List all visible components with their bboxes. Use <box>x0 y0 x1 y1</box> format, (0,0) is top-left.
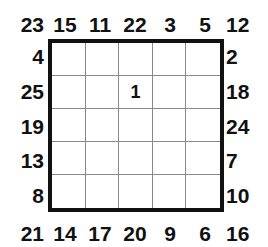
bottom-clue-col-1: 14 <box>48 221 82 245</box>
grid-cell-r2c2[interactable] <box>86 76 120 109</box>
left-clue-row-4: 13 <box>4 143 44 177</box>
grid-cell-r3c4[interactable] <box>153 109 187 142</box>
grid-cell-r1c4[interactable] <box>153 43 187 76</box>
puzzle-grid: 1 <box>48 39 224 212</box>
grid-cell-r5c5[interactable] <box>186 175 220 208</box>
grid-cell-r4c1[interactable] <box>52 142 86 175</box>
grid-cell-r2c5[interactable] <box>186 76 220 109</box>
bottom-clue-col-4: 9 <box>153 221 187 245</box>
grid-cell-r1c2[interactable] <box>86 43 120 76</box>
grid-cell-r3c5[interactable] <box>186 109 220 142</box>
left-clue-row-3: 19 <box>4 109 44 143</box>
grid-cell-r2c1[interactable] <box>52 76 86 109</box>
bottom-clue-col-5: 6 <box>188 221 222 245</box>
grid-cell-r2c4[interactable] <box>153 76 187 109</box>
grid-cell-r4c2[interactable] <box>86 142 120 175</box>
grid-cell-r2c3[interactable]: 1 <box>119 76 153 109</box>
grid-cell-r3c2[interactable] <box>86 109 120 142</box>
grid-cell-r5c1[interactable] <box>52 175 86 208</box>
top-clue-col-3: 22 <box>118 12 152 36</box>
grid-cell-r3c3[interactable] <box>119 109 153 142</box>
grid-cell-r5c3[interactable] <box>119 175 153 208</box>
top-clue-col-1: 15 <box>48 12 82 36</box>
grid-cell-r4c4[interactable] <box>153 142 187 175</box>
right-clue-row-2: 18 <box>226 74 266 108</box>
grid-cell-r1c1[interactable] <box>52 43 86 76</box>
corner-clue-bottom-right: 16 <box>226 221 266 245</box>
corner-clue-bottom-left: 21 <box>4 221 44 245</box>
corner-clue-top-left: 23 <box>4 12 44 36</box>
right-clue-row-5: 10 <box>226 178 266 212</box>
corner-clue-top-right: 12 <box>226 12 266 36</box>
grid-cell-r5c2[interactable] <box>86 175 120 208</box>
grid-cell-r5c4[interactable] <box>153 175 187 208</box>
left-clue-row-1: 4 <box>4 39 44 73</box>
grid-cell-r4c3[interactable] <box>119 142 153 175</box>
left-clue-row-5: 8 <box>4 178 44 212</box>
right-clue-row-1: 2 <box>226 39 266 73</box>
right-clue-row-3: 24 <box>226 109 266 143</box>
top-clue-col-4: 3 <box>153 12 187 36</box>
grid-cell-r3c1[interactable] <box>52 109 86 142</box>
puzzle-board: 23 12 21 16 15 11 22 3 5 14 17 20 9 6 4 … <box>0 0 268 247</box>
grid-cell-r1c5[interactable] <box>186 43 220 76</box>
grid-cell-r4c5[interactable] <box>186 142 220 175</box>
bottom-clue-col-2: 17 <box>83 221 117 245</box>
grid-cell-r1c3[interactable] <box>119 43 153 76</box>
top-clue-col-5: 5 <box>188 12 222 36</box>
left-clue-row-2: 25 <box>4 74 44 108</box>
right-clue-row-4: 7 <box>226 143 266 177</box>
bottom-clue-col-3: 20 <box>118 221 152 245</box>
top-clue-col-2: 11 <box>83 12 117 36</box>
